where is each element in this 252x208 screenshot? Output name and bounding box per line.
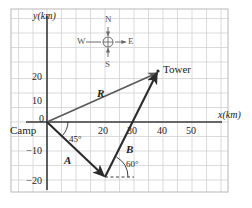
- y-tick-20: 20: [30, 72, 42, 82]
- y-tick-minus-20: −20: [22, 176, 42, 186]
- compass-south-label: S: [105, 60, 110, 69]
- tower-point-marker: [156, 69, 159, 72]
- compass-east-label: E: [128, 37, 134, 46]
- camp-label: Camp: [10, 125, 36, 136]
- vector-R-label: R: [97, 88, 104, 99]
- vector-diagram-figure: y(km) x(km) 20 10 0 −10 −20 20 30 40 50 …: [0, 0, 252, 208]
- angle-60-label: 60°: [126, 160, 139, 169]
- x-tick-50: 50: [186, 126, 196, 136]
- y-tick-minus-10: −10: [22, 146, 42, 156]
- tower-label: Tower: [163, 64, 191, 75]
- x-tick-40: 40: [157, 126, 167, 136]
- x-tick-30: 30: [127, 126, 137, 136]
- x-axis-label: x(km): [218, 110, 241, 120]
- compass-west-label: W: [77, 37, 86, 46]
- x-tick-20: 20: [98, 126, 108, 136]
- angle-45-label: 45°: [69, 135, 82, 144]
- y-axis-label: y(km): [33, 11, 56, 21]
- vector-B-label: B: [126, 144, 133, 155]
- y-tick-0: 0: [36, 114, 44, 124]
- compass-north-label: N: [105, 15, 112, 24]
- vector-A-label: A: [64, 155, 71, 166]
- y-tick-10: 10: [30, 96, 42, 106]
